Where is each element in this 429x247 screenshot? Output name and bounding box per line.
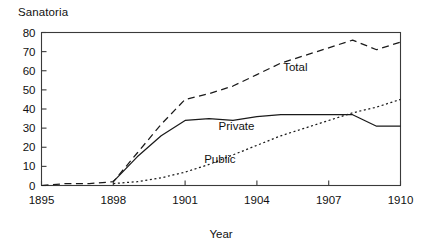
chart-figure: Sanatoria 01020304050607080 189518981901… bbox=[0, 0, 429, 247]
x-tick-label: 1907 bbox=[316, 194, 342, 206]
y-tick-label: 60 bbox=[23, 65, 36, 77]
y-tick-label: 70 bbox=[23, 46, 36, 58]
x-tick-label: 1901 bbox=[172, 194, 198, 206]
x-tick-label: 1898 bbox=[101, 194, 127, 206]
y-tick-label: 20 bbox=[23, 141, 36, 153]
y-tick-label: 30 bbox=[23, 122, 36, 134]
y-tick-label: 40 bbox=[23, 103, 36, 115]
x-tick-label: 1895 bbox=[29, 194, 55, 206]
series-line-private bbox=[113, 115, 400, 182]
y-axis-tick-labels: 01020304050607080 bbox=[23, 27, 36, 192]
series-label-total: Total bbox=[283, 61, 307, 73]
x-tick-label: 1910 bbox=[388, 194, 414, 206]
y-tick-label: 50 bbox=[23, 84, 36, 96]
series-line-public bbox=[113, 99, 400, 183]
y-tick-label: 0 bbox=[29, 180, 35, 192]
x-axis-tick-labels: 189518981901190419071910 bbox=[29, 194, 414, 206]
x-tick-label: 1904 bbox=[244, 194, 270, 206]
series-label-private: Private bbox=[219, 120, 255, 132]
series-label-public: Public bbox=[204, 153, 236, 165]
x-axis-title: Year bbox=[209, 228, 232, 240]
y-tick-label: 80 bbox=[23, 27, 36, 39]
line-chart-plot: 01020304050607080 1895189819011904190719… bbox=[0, 0, 429, 247]
y-axis-ticks bbox=[42, 33, 47, 186]
y-tick-label: 10 bbox=[23, 160, 36, 172]
x-axis-ticks bbox=[42, 181, 401, 186]
